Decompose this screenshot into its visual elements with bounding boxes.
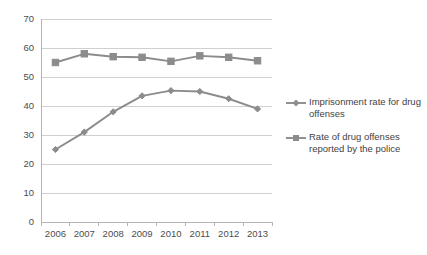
data-point-marker <box>225 54 231 60</box>
diamond-marker-icon <box>285 97 307 109</box>
data-point-marker <box>254 58 260 64</box>
data-point-marker <box>139 54 145 60</box>
x-axis-tick-label: 2008 <box>103 228 124 239</box>
data-point-marker <box>52 59 58 65</box>
data-point-marker <box>254 106 260 112</box>
data-point-marker <box>81 51 87 57</box>
y-axis-tick-label: 30 <box>23 129 34 140</box>
y-axis-tick-label: 20 <box>23 158 34 169</box>
plot-svg: 010203040506070 200620072008200920102011… <box>0 0 280 255</box>
x-axis-tick-label: 2013 <box>247 228 268 239</box>
series-markers <box>52 51 261 153</box>
data-point-marker <box>197 88 203 94</box>
x-axis-tick-label: 2010 <box>160 228 181 239</box>
line-chart: 010203040506070 200620072008200920102011… <box>0 0 427 255</box>
y-axis-tick-label: 50 <box>23 71 34 82</box>
x-axis-tick-label: 2011 <box>190 228 210 239</box>
x-axis-tick-label: 2009 <box>131 228 152 239</box>
gridlines <box>41 19 272 222</box>
x-axis-tick-marks <box>41 222 272 226</box>
data-point-marker <box>197 53 203 59</box>
x-axis-tick-label: 2012 <box>218 228 239 239</box>
data-point-marker <box>168 58 174 64</box>
plot-area: 010203040506070 200620072008200920102011… <box>0 0 280 255</box>
y-axis-tick-label: 0 <box>29 216 34 227</box>
y-axis-tick-labels: 010203040506070 <box>23 13 34 227</box>
data-point-marker <box>110 54 116 60</box>
y-axis-tick-label: 60 <box>23 42 34 53</box>
y-axis-tick-label: 10 <box>23 187 34 198</box>
data-point-marker <box>168 88 174 94</box>
legend-label-imprisonment-rate: Imprisonment rate for drug offenses <box>309 96 421 120</box>
y-axis-tick-label: 70 <box>23 13 34 24</box>
square-marker-icon <box>285 132 307 144</box>
x-axis-tick-label: 2006 <box>45 228 66 239</box>
legend-entry-imprisonment-rate: Imprisonment rate for drug offenses <box>285 96 425 120</box>
data-point-marker <box>226 96 232 102</box>
x-axis-tick-labels: 20062007200820092010201120122013 <box>45 228 268 239</box>
legend-label-reported-rate: Rate of drug offenses reported by the po… <box>309 131 400 155</box>
axis-lines <box>41 19 272 222</box>
chart-legend: Imprisonment rate for drug offenses Rate… <box>285 96 425 166</box>
legend-entry-reported-rate: Rate of drug offenses reported by the po… <box>285 131 425 155</box>
y-axis-tick-label: 40 <box>23 100 34 111</box>
x-axis-tick-label: 2007 <box>74 228 95 239</box>
